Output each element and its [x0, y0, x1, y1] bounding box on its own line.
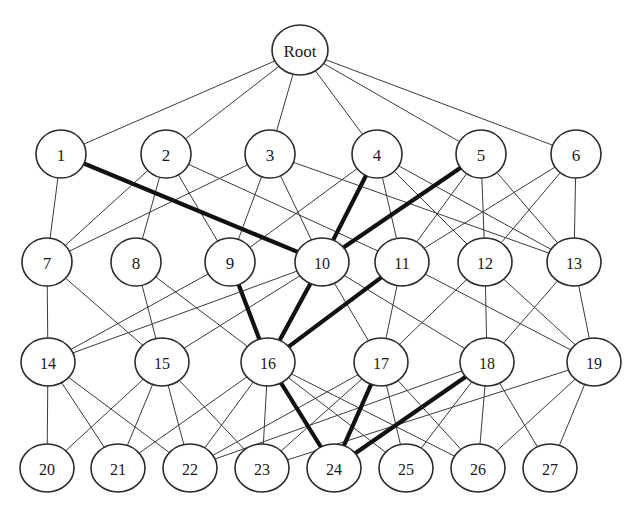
edge	[485, 286, 486, 338]
node-1[interactable]: 1	[36, 130, 86, 178]
edge	[280, 176, 311, 240]
node-18[interactable]: 18	[460, 338, 514, 386]
node-4[interactable]: 4	[352, 130, 402, 178]
node-20[interactable]: 20	[20, 444, 74, 492]
node-circle	[241, 338, 295, 386]
node-circle	[272, 25, 328, 75]
graph-canvas: Root123456789101112131415161718192021222…	[0, 0, 634, 517]
edge	[504, 279, 575, 345]
edge	[574, 178, 575, 238]
node-15[interactable]: 15	[135, 338, 189, 386]
node-26[interactable]: 26	[451, 444, 505, 492]
edge	[142, 177, 159, 239]
edge	[250, 169, 357, 248]
node-circle	[295, 238, 349, 286]
node-circle	[354, 338, 408, 386]
node-circle	[205, 238, 255, 286]
node-circle	[91, 444, 145, 492]
edge	[47, 386, 48, 444]
edge	[387, 385, 401, 444]
edge	[480, 386, 485, 444]
edge	[386, 286, 397, 339]
edge	[497, 173, 558, 243]
node-circle	[375, 238, 429, 286]
node-circle	[458, 238, 512, 286]
edge	[326, 60, 553, 146]
node-circle	[20, 444, 74, 492]
edge-highlighted	[333, 176, 366, 241]
node-circle	[547, 238, 601, 286]
node-19[interactable]: 19	[567, 338, 621, 386]
edge-highlighted	[355, 377, 465, 454]
edge-highlighted	[281, 383, 321, 447]
node-5[interactable]: 5	[456, 130, 506, 178]
node-circle	[551, 130, 601, 178]
node-17[interactable]: 17	[354, 338, 408, 386]
edge-highlighted	[343, 168, 460, 248]
edge	[66, 278, 143, 345]
edge	[168, 385, 184, 444]
node-circle	[22, 238, 72, 286]
node-12[interactable]: 12	[458, 238, 512, 286]
edge	[399, 280, 466, 345]
node-circle	[141, 130, 191, 178]
node-circle	[451, 444, 505, 492]
node-circle	[135, 338, 189, 386]
node-2[interactable]: 2	[141, 130, 191, 178]
network-graph: Root123456789101112131415161718192021222…	[0, 0, 634, 517]
node-circle	[21, 338, 75, 386]
edge	[179, 380, 244, 449]
node-circle	[111, 238, 161, 286]
edge	[139, 377, 247, 453]
node-circle	[235, 444, 289, 492]
edge	[69, 377, 170, 452]
edge	[417, 174, 467, 242]
node-3[interactable]: 3	[245, 130, 295, 178]
node-9[interactable]: 9	[205, 238, 255, 286]
node-6[interactable]: 6	[551, 130, 601, 178]
node-circle	[379, 444, 433, 492]
edge	[185, 66, 278, 139]
node-11[interactable]: 11	[375, 238, 429, 286]
edge-layer-highlighted	[84, 164, 466, 454]
edge	[382, 177, 396, 238]
edge	[277, 74, 293, 131]
node-21[interactable]: 21	[91, 444, 145, 492]
node-27[interactable]: 27	[523, 444, 577, 492]
edge-highlighted	[344, 384, 371, 445]
node-circle	[567, 338, 621, 386]
node-circle	[36, 130, 86, 178]
edge	[178, 175, 217, 241]
node-25[interactable]: 25	[379, 444, 433, 492]
edge	[62, 383, 105, 448]
node-8[interactable]: 8	[111, 238, 161, 286]
edge	[501, 173, 560, 243]
node-22[interactable]: 22	[163, 444, 217, 492]
node-7[interactable]: 7	[22, 238, 72, 286]
node-10[interactable]: 10	[295, 238, 349, 286]
edge	[263, 386, 266, 444]
node-16[interactable]: 16	[241, 338, 295, 386]
edge	[500, 383, 538, 447]
edge	[66, 379, 144, 450]
node-circle	[352, 130, 402, 178]
node-14[interactable]: 14	[21, 338, 75, 386]
node-23[interactable]: 23	[235, 444, 289, 492]
edge	[504, 281, 558, 343]
edge	[315, 71, 362, 135]
node-circle	[456, 130, 506, 178]
edge	[156, 277, 248, 347]
node-circle	[307, 444, 361, 492]
edge	[47, 286, 48, 338]
node-circle	[523, 444, 577, 492]
edge	[579, 286, 590, 339]
node-circle	[245, 130, 295, 178]
node-24[interactable]: 24	[307, 444, 361, 492]
edge	[559, 385, 584, 446]
node-13[interactable]: 13	[547, 238, 601, 286]
edge	[497, 379, 575, 451]
node-root[interactable]: Root	[272, 25, 328, 75]
edge	[65, 170, 148, 245]
edge	[425, 274, 570, 350]
edge	[127, 385, 152, 446]
